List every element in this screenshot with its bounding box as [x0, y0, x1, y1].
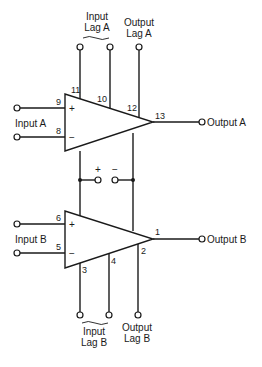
opamp-b-minus-sign: − — [69, 248, 75, 259]
input-lag-b-brace — [82, 322, 108, 325]
opamp-a-minus-sign: − — [69, 132, 75, 143]
input-a-label: Input A — [15, 118, 46, 129]
pin-5-number: 5 — [56, 242, 61, 252]
pin-8-number: 8 — [56, 126, 61, 136]
pin-4-number: 4 — [111, 256, 116, 266]
pin-3-number: 3 — [82, 265, 87, 275]
pin-11-number: 11 — [71, 85, 80, 95]
v-plus-junction — [78, 178, 82, 182]
output-lag-b-label-2: Lag B — [124, 333, 150, 344]
pin-2-terminal — [135, 312, 141, 318]
v-plus-terminal — [95, 177, 101, 183]
input-a-minus-terminal — [14, 134, 20, 140]
v-minus-terminal — [112, 177, 118, 183]
input-lag-b-label-2: Lag B — [81, 337, 107, 348]
input-b-label: Input B — [15, 234, 47, 245]
output-lag-b-label-1: Output — [122, 322, 152, 333]
output-a-terminal — [199, 119, 205, 125]
opamp-a-triangle — [65, 94, 153, 151]
input-lag-a-label-1: Input — [86, 11, 108, 22]
pin-13-number: 13 — [155, 111, 165, 121]
pin-9-number: 9 — [56, 97, 61, 107]
pin-3-terminal — [77, 312, 83, 318]
output-lag-a-label-2: Lag A — [126, 28, 152, 39]
pin-2-number: 2 — [141, 246, 146, 256]
pin-11-terminal — [77, 44, 83, 50]
input-b-minus-terminal — [14, 250, 20, 256]
opamp-a-plus-sign: + — [69, 103, 75, 114]
output-b-terminal — [199, 236, 205, 242]
opamp-b-plus-sign: + — [69, 219, 75, 230]
pin-10-terminal — [107, 44, 113, 50]
pin-10-number: 10 — [97, 94, 107, 104]
power-supply: + − — [78, 133, 135, 231]
pin-1-number: 1 — [155, 227, 160, 237]
input-lag-b-label-1: Input — [83, 326, 105, 337]
output-b-label: Output B — [207, 234, 247, 245]
dual-opamp-diagram: Input Lag A Output Lag A Input A Output … — [0, 0, 262, 367]
v-minus-label: − — [112, 164, 118, 175]
input-lag-a-label-2: Lag A — [84, 22, 110, 33]
pin-12-terminal — [136, 44, 142, 50]
output-lag-a-label-1: Output — [124, 17, 154, 28]
amplifier-a: Input Lag A Output Lag A Input A Output … — [14, 11, 246, 151]
input-b-plus-terminal — [14, 221, 20, 227]
input-lag-a-brace — [83, 37, 109, 40]
v-plus-label: + — [95, 164, 101, 175]
amplifier-b: Input B Output B Input Lag B Output Lag … — [14, 211, 247, 348]
pin-6-number: 6 — [56, 213, 61, 223]
pin-12-number: 12 — [127, 103, 137, 113]
v-minus-junction — [131, 178, 135, 182]
output-a-label: Output A — [207, 117, 246, 128]
pin-4-terminal — [106, 312, 112, 318]
input-a-plus-terminal — [14, 105, 20, 111]
